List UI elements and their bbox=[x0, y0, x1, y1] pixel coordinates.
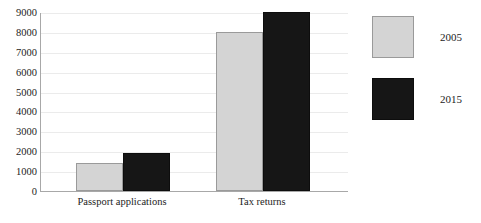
legend-item-2015[interactable]: 2015 bbox=[372, 78, 462, 120]
bar-chart: 0100020003000400050006000700080009000 Pa… bbox=[0, 0, 481, 223]
dark-swatch bbox=[372, 78, 414, 120]
light-gray-swatch bbox=[372, 16, 414, 58]
legend-label: 2005 bbox=[440, 31, 462, 43]
legend-item-2005[interactable]: 2005 bbox=[372, 16, 462, 58]
y-axis-tick-label: 4000 bbox=[1, 107, 37, 118]
y-axis-tick-label: 5000 bbox=[1, 87, 37, 98]
legend-label: 2015 bbox=[440, 93, 462, 105]
plot-area bbox=[40, 13, 348, 192]
y-axis-tick-label: 1000 bbox=[1, 167, 37, 178]
bar-tax-returns-2015 bbox=[263, 12, 310, 191]
y-axis-tick-label: 2000 bbox=[1, 147, 37, 158]
bar-passport-applications-2005 bbox=[76, 163, 123, 191]
x-axis-label-tax-returns: Tax returns bbox=[238, 196, 285, 208]
x-axis-label-passport-applications: Passport applications bbox=[78, 196, 167, 208]
y-axis-tick-label: 0 bbox=[1, 187, 37, 198]
bar-passport-applications-2015 bbox=[123, 153, 170, 191]
y-axis-tick-label: 3000 bbox=[1, 127, 37, 138]
y-axis-tick-label: 8000 bbox=[1, 28, 37, 39]
chart-legend: 20052015 bbox=[372, 0, 481, 223]
y-axis: 0100020003000400050006000700080009000 bbox=[0, 0, 37, 223]
y-axis-tick-label: 9000 bbox=[1, 8, 37, 19]
bar-tax-returns-2005 bbox=[216, 32, 263, 191]
y-axis-tick-label: 7000 bbox=[1, 48, 37, 59]
y-axis-tick-label: 6000 bbox=[1, 67, 37, 78]
